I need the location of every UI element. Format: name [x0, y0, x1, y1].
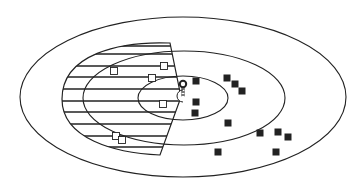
filled-square: [257, 130, 264, 137]
filled-square-markers: [192, 75, 292, 156]
concentric-ellipse-diagram: [0, 0, 362, 191]
filled-square: [193, 78, 200, 85]
filled-square: [215, 149, 222, 156]
filled-square: [225, 120, 232, 127]
filled-square: [224, 75, 231, 82]
open-square: [160, 101, 167, 108]
ellipse-middle: [83, 51, 285, 145]
filled-square: [275, 129, 282, 136]
filled-square: [273, 149, 280, 156]
filled-square: [239, 88, 246, 95]
filled-square: [192, 110, 199, 117]
open-square: [161, 63, 168, 70]
open-square: [119, 137, 126, 144]
filled-square: [193, 99, 200, 106]
filled-square: [285, 134, 292, 141]
filled-square: [232, 81, 239, 88]
diagram-canvas: [0, 0, 362, 191]
open-square: [111, 68, 118, 75]
center-circle: [180, 81, 186, 87]
open-square: [149, 75, 156, 82]
